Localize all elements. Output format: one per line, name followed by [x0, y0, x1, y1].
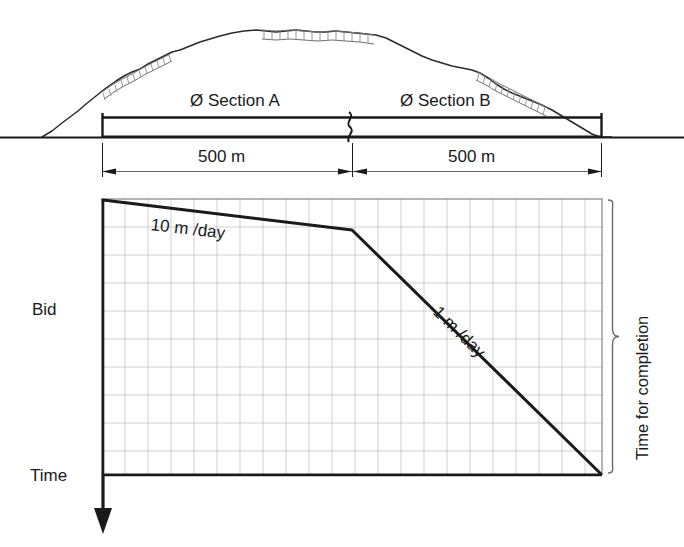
- chart-frame: [102, 199, 602, 474]
- dimension-line-group: [102, 143, 602, 177]
- completion-bracket-label-group: Time for completion: [633, 316, 651, 460]
- dimension-b-label: 500 m: [448, 147, 495, 167]
- cross-section-group: [0, 30, 684, 177]
- svg-text:Time for completion: Time for completion: [633, 316, 651, 460]
- section-b-label: Ø Section B: [400, 91, 491, 111]
- rock-hatch-left: [102, 54, 172, 100]
- dimension-a-label: 500 m: [198, 147, 245, 167]
- chart-grid: [102, 199, 602, 474]
- tunnel-bid-diagram: 1 m /day Time for completion Ø Section A…: [0, 0, 684, 547]
- chart-group: 1 m /day Time for completion: [94, 199, 651, 534]
- bid-curve: [103, 200, 601, 474]
- bid-axis-label: Bid: [32, 300, 57, 320]
- chart-axes: [94, 199, 602, 534]
- time-axis-label: Time: [30, 466, 67, 486]
- diagram-canvas: 1 m /day Time for completion: [0, 0, 684, 547]
- mountain-profile-path: [42, 30, 612, 137]
- completion-bracket: [608, 200, 619, 473]
- section-a-label: Ø Section A: [190, 91, 280, 111]
